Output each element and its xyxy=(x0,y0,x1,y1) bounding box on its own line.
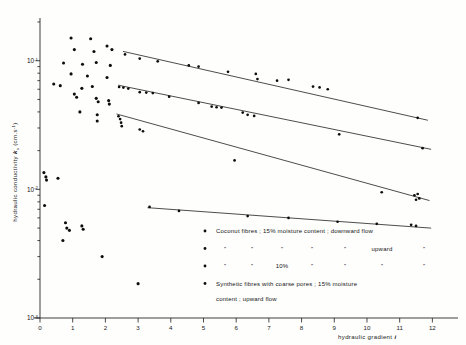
data-point xyxy=(142,130,145,133)
data-point xyxy=(109,64,112,67)
data-point xyxy=(105,76,108,79)
data-point xyxy=(336,220,339,223)
data-point xyxy=(138,128,141,131)
data-point xyxy=(73,93,76,96)
legend-marker-2 xyxy=(204,247,207,250)
data-point xyxy=(415,198,418,201)
legend-cell-2-2: ” xyxy=(251,246,253,252)
data-point xyxy=(70,37,73,40)
data-point xyxy=(246,113,249,116)
y-tick-label: 10-2 xyxy=(27,185,39,193)
data-point xyxy=(416,193,419,196)
data-point xyxy=(81,63,84,66)
data-point xyxy=(241,111,244,114)
x-tick-label: 2 xyxy=(104,324,108,331)
data-point xyxy=(220,106,223,109)
legend-label-4: Synthetic fibres with coarse pores ; 15%… xyxy=(216,281,358,287)
data-point xyxy=(64,221,67,224)
data-point xyxy=(312,85,315,88)
legend-marker-1 xyxy=(204,230,207,233)
x-tick-label: 3 xyxy=(136,324,140,331)
data-point xyxy=(287,79,290,82)
data-point xyxy=(276,79,279,82)
x-tick-label: 6 xyxy=(234,324,238,331)
data-point xyxy=(92,50,95,53)
data-point xyxy=(82,228,85,231)
x-tick-label: 0 xyxy=(38,324,42,331)
data-point xyxy=(380,191,383,194)
legend-label-4-line2: content ; upward flow xyxy=(216,296,277,302)
data-point xyxy=(246,215,249,218)
data-point xyxy=(418,197,421,200)
legend: Coconut fibres ; 15% moisture content ; … xyxy=(204,228,425,302)
data-point xyxy=(122,86,125,89)
data-point xyxy=(187,64,190,67)
legend-cell-2-5: ” xyxy=(344,246,346,252)
data-point xyxy=(326,88,329,91)
data-point xyxy=(138,91,141,94)
data-point xyxy=(233,159,236,162)
data-point xyxy=(73,48,76,51)
trend-line-2 xyxy=(118,85,430,149)
data-point xyxy=(210,105,213,108)
data-point xyxy=(44,175,47,178)
legend-cell-3-1: ” xyxy=(224,263,226,269)
data-point xyxy=(61,239,64,242)
data-point xyxy=(75,96,78,99)
data-point xyxy=(86,75,89,78)
data-point xyxy=(415,225,418,228)
data-point xyxy=(118,86,121,89)
legend-cell-2-7: ” xyxy=(423,246,425,252)
data-point xyxy=(43,204,46,207)
data-point xyxy=(375,222,378,225)
data-point xyxy=(70,72,73,75)
data-point xyxy=(96,119,99,122)
trend-line-3 xyxy=(117,114,429,200)
data-point xyxy=(59,84,62,87)
data-point xyxy=(42,171,45,174)
data-point xyxy=(318,86,321,89)
data-point xyxy=(78,110,81,113)
data-point xyxy=(110,48,113,51)
legend-cell-2-3: ” xyxy=(281,246,283,252)
data-point xyxy=(62,61,65,64)
x-axis: 0123456789101112 xyxy=(34,318,458,331)
data-point xyxy=(416,116,419,119)
legend-cell-3-2: ” xyxy=(251,263,253,269)
legend-cell-3-7: ” xyxy=(423,263,425,269)
data-point xyxy=(45,179,48,182)
data-point xyxy=(91,85,94,88)
trend-lines xyxy=(117,51,431,228)
x-tick-label: 8 xyxy=(300,324,304,331)
data-point xyxy=(89,37,92,40)
data-point xyxy=(287,217,290,220)
legend-marker-3 xyxy=(204,265,207,268)
y-tick-label: 10-1 xyxy=(27,57,39,65)
data-point xyxy=(95,97,98,100)
data-point xyxy=(138,57,141,60)
x-tick-label: 1 xyxy=(71,324,75,331)
data-point xyxy=(96,113,99,116)
data-point xyxy=(197,102,200,105)
legend-label-1: Coconut fibres ; 15% moisture content ; … xyxy=(216,228,373,234)
data-point xyxy=(124,53,127,56)
data-point xyxy=(137,282,140,285)
scatter-plot: 10-110-210-3 0123456789101112 hydraulic … xyxy=(0,0,466,345)
legend-cell-3-4: ” xyxy=(311,263,313,269)
data-points xyxy=(42,37,424,286)
data-point xyxy=(145,91,148,94)
data-point xyxy=(56,177,59,180)
x-axis-title: hydraulic gradient i xyxy=(338,333,397,340)
legend-cell-3-6: ” xyxy=(381,263,383,269)
data-point xyxy=(421,147,424,150)
data-point xyxy=(227,70,230,73)
data-point xyxy=(148,206,151,209)
data-point xyxy=(52,82,55,85)
data-point xyxy=(95,61,98,64)
data-point xyxy=(108,103,111,106)
x-tick-label: 11 xyxy=(396,324,403,331)
figure-canvas: 10-110-210-3 0123456789101112 hydraulic … xyxy=(0,0,466,345)
data-point xyxy=(168,95,171,98)
data-point xyxy=(256,78,259,81)
data-point xyxy=(119,118,122,121)
